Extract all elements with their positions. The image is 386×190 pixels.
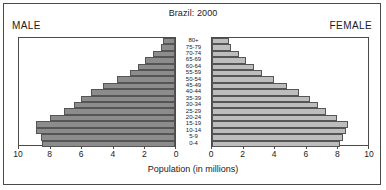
chart-title: Brazil: 2000 <box>4 8 382 18</box>
x-axis-label: Population (in millions) <box>4 164 382 174</box>
axis-tick-label-0: 0 <box>209 149 214 159</box>
male-panel-label: MALE <box>12 20 41 31</box>
chart-frame: Brazil: 2000 MALE FEMALE 80+75-7970-7465… <box>3 3 381 185</box>
axis-tick-label-0: 0 <box>174 149 179 159</box>
axis-tick-label-2: 2 <box>240 149 245 159</box>
female-plot-area <box>211 37 369 146</box>
axis-tick-label-2: 2 <box>142 149 147 159</box>
axis-tick-label-10: 10 <box>13 149 22 159</box>
male-x-axis: 1086420 <box>18 146 176 162</box>
age-group-labels: 80+75-7970-7465-6960-6455-5950-5445-4940… <box>176 37 211 146</box>
axis-tick-label-8: 8 <box>47 149 52 159</box>
female-bar-rows <box>212 38 368 145</box>
axis-tick-label-8: 8 <box>335 149 340 159</box>
male-plot-area <box>18 37 176 146</box>
axis-tick-label-6: 6 <box>79 149 84 159</box>
age-label-0-4: 0-4 <box>176 140 211 146</box>
female-panel-label: FEMALE <box>330 20 372 31</box>
axis-tick-label-10: 10 <box>364 149 373 159</box>
male-bar-rows <box>19 38 175 145</box>
axis-tick-label-6: 6 <box>303 149 308 159</box>
axis-tick-label-4: 4 <box>272 149 277 159</box>
axis-tick-label-4: 4 <box>110 149 115 159</box>
female-x-axis: 0246810 <box>211 146 369 162</box>
